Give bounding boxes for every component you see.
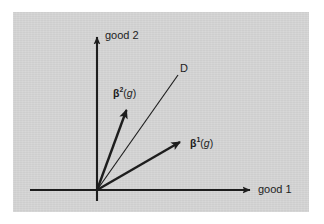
y-axis-label: good 2 bbox=[105, 30, 139, 41]
beta1-paren-close: ) bbox=[210, 137, 214, 149]
ray-d-line bbox=[97, 75, 178, 190]
vector-beta1-label: β1(g) bbox=[190, 136, 213, 148]
vector-beta1-line bbox=[97, 142, 180, 190]
vector-beta2-line bbox=[97, 110, 127, 190]
figure-root: good 2 good 1 D β2(g) β1(g) bbox=[0, 0, 324, 224]
vector-beta2-label: β2(g) bbox=[113, 86, 136, 98]
beta2-paren-close: ) bbox=[133, 87, 137, 99]
ray-d-label: D bbox=[180, 63, 188, 74]
x-axis-label: good 1 bbox=[258, 184, 292, 195]
